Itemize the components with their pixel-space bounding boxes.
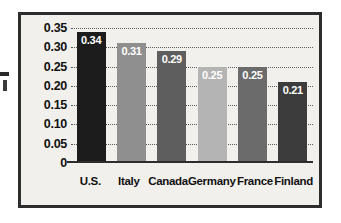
bar-slot: 0.25 [192,28,232,163]
x-axis: U.S.ItalyCanadaGermanyFranceFinland [71,171,313,191]
x-axis-tick-label: France [236,171,275,191]
y-axis-tick-label: 0.10 [21,118,67,131]
bar[interactable]: 0.31 [117,43,146,163]
y-axis: 0.350.300.250.200.150.100.050 [21,15,67,205]
bar-slot: 0.29 [152,28,192,163]
bar-value-label: 0.25 [202,70,222,81]
bar[interactable]: 0.25 [198,67,227,163]
x-axis-tick-label: Finland [274,171,313,191]
axis-baseline [67,161,313,163]
bar[interactable]: 0.21 [278,82,307,163]
chart-frame: 0.350.300.250.200.150.100.050 0.340.310.… [18,12,322,208]
bar-value-label: 0.21 [283,85,303,96]
bar-slot: 0.25 [232,28,272,163]
bar[interactable]: 0.34 [77,32,106,163]
bar-slot: 0.31 [111,28,151,163]
bar-value-label: 0.29 [162,54,182,65]
bar-slot: 0.21 [273,28,313,163]
y-axis-tick-label: 0.20 [21,80,67,93]
bar-value-label: 0.34 [81,35,101,46]
y-axis-tick-label: 0.05 [21,137,67,150]
edge-mark-upper [0,72,9,76]
x-axis-tick-label: Germany [188,171,236,191]
bar-series: 0.340.310.290.250.250.21 [71,28,313,163]
bar-value-label: 0.25 [242,70,262,81]
bar[interactable]: 0.29 [157,51,186,163]
y-axis-tick-label: 0.25 [21,60,67,73]
bar-slot: 0.34 [71,28,111,163]
y-axis-tick-label: 0.15 [21,99,67,112]
plot-area: 0.340.310.290.250.250.21 [71,28,313,163]
x-axis-tick-label: U.S. [71,171,110,191]
chart-plot-wrapper: 0.350.300.250.200.150.100.050 0.340.310.… [21,15,319,205]
y-axis-tick-label: 0 [21,157,67,170]
x-axis-tick-label: Italy [110,171,149,191]
y-axis-tick-label: 0.35 [21,22,67,35]
bar[interactable]: 0.25 [238,67,267,163]
bar-value-label: 0.31 [121,46,141,57]
x-axis-tick-label: Canada [148,171,188,191]
edge-mark-lower [3,80,7,91]
y-axis-tick-label: 0.30 [21,41,67,54]
